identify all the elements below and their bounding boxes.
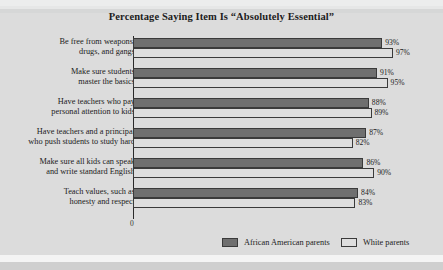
bar-chart: Percentage Saying Item Is “Absolutely Es… xyxy=(0,0,443,270)
category-label: Have teachers who paypersonal attention … xyxy=(51,97,135,117)
bar-african-american-parents xyxy=(133,98,369,108)
bar-white-parents xyxy=(133,108,372,118)
bar-white-parents xyxy=(133,168,374,178)
category-label-line: and write standard English xyxy=(39,167,135,177)
chart-legend: African American parents White parents xyxy=(0,238,443,254)
category-label-line: drugs, and gangs xyxy=(59,47,135,57)
legend-item-white-parents: White parents xyxy=(341,238,409,247)
category-label: Be free from weapons,drugs, and gangs xyxy=(59,37,135,57)
category-label-line: who push students to study hard xyxy=(28,137,135,147)
bar-african-american-parents xyxy=(133,38,382,48)
chart-title: Percentage Saying Item Is “Absolutely Es… xyxy=(0,11,443,22)
category-label-line: Have teachers who pay xyxy=(51,97,135,107)
legend-swatch-white-parents xyxy=(341,238,357,247)
category-label-line: Have teachers and a principal xyxy=(28,127,135,137)
category-label-line: Make sure all kids can speak xyxy=(39,157,135,167)
category-label: Make sure all kids can speakand write st… xyxy=(39,157,135,177)
category-label-line: master the basics xyxy=(71,77,135,87)
bar-value-label: 90% xyxy=(377,168,391,178)
bar-african-american-parents xyxy=(133,188,358,198)
bar-white-parents xyxy=(133,138,353,148)
bar-white-parents xyxy=(133,198,355,208)
legend-swatch-african-american-parents xyxy=(222,238,238,247)
bar-white-parents xyxy=(133,78,388,88)
axis-origin-label: 0 xyxy=(130,219,134,228)
bar-value-label: 89% xyxy=(375,108,389,118)
bar-value-label: 93% xyxy=(385,38,399,48)
legend-label-african-american-parents: African American parents xyxy=(244,238,330,247)
bar-value-label: 83% xyxy=(358,198,372,208)
legend-label-white-parents: White parents xyxy=(363,238,409,247)
bar-value-label: 82% xyxy=(356,138,370,148)
category-label: Have teachers and a principalwho push st… xyxy=(28,127,135,147)
bar-white-parents xyxy=(133,48,393,58)
category-label-line: Teach values, such as xyxy=(64,187,135,197)
category-label-line: personal attention to kids xyxy=(51,107,135,117)
bar-value-label: 88% xyxy=(372,98,386,108)
bar-value-label: 97% xyxy=(396,48,410,58)
legend-item-african-american-parents: African American parents xyxy=(222,238,330,247)
category-label: Teach values, such ashonesty and respect xyxy=(64,187,135,207)
bar-value-label: 86% xyxy=(366,158,380,168)
bar-african-american-parents xyxy=(133,128,366,138)
bar-value-label: 91% xyxy=(380,68,394,78)
bar-value-label: 87% xyxy=(369,128,383,138)
bar-value-label: 95% xyxy=(391,78,405,88)
category-label-line: Be free from weapons, xyxy=(59,37,135,47)
category-label-line: honesty and respect xyxy=(64,197,135,207)
bar-african-american-parents xyxy=(133,68,377,78)
category-label-line: Make sure students xyxy=(71,67,135,77)
category-label: Make sure studentsmaster the basics xyxy=(71,67,135,87)
bar-african-american-parents xyxy=(133,158,363,168)
bar-value-label: 84% xyxy=(361,188,375,198)
